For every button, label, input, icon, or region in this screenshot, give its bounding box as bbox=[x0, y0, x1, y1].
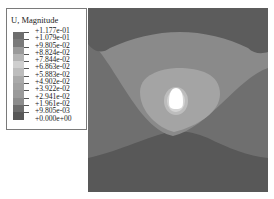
legend-swatch bbox=[13, 98, 24, 105]
legend-label: +0.000e+00 bbox=[35, 115, 72, 122]
legend-swatch bbox=[13, 83, 24, 90]
legend-title: U, Magnitude bbox=[11, 15, 58, 25]
legend-swatch bbox=[13, 90, 24, 97]
legend-swatch bbox=[13, 47, 24, 54]
contour-svg bbox=[88, 8, 268, 192]
legend-swatch bbox=[13, 32, 24, 39]
legend-swatch bbox=[13, 105, 24, 112]
legend-swatch bbox=[13, 54, 24, 61]
legend-swatch bbox=[13, 76, 24, 83]
contour-plot bbox=[88, 8, 268, 192]
opening bbox=[169, 88, 183, 109]
legend-swatch bbox=[13, 68, 24, 75]
legend-swatch bbox=[13, 39, 24, 46]
legend: U, Magnitude +1.177e-01 +1.079e-01 +9.80… bbox=[6, 8, 87, 130]
legend-swatch bbox=[13, 61, 24, 68]
legend-swatch bbox=[13, 112, 24, 119]
legend-swatches bbox=[13, 32, 24, 120]
legend-labels: +1.177e-01 +1.079e-01 +9.805e-02 +8.824e… bbox=[35, 27, 72, 122]
